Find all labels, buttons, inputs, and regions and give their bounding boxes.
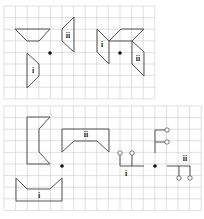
object-wing-right <box>109 29 144 41</box>
centre-of-rotation-dot <box>118 51 122 55</box>
figures <box>15 17 192 201</box>
centre-of-rotation-dot <box>153 164 157 168</box>
ring-end-icon <box>188 176 192 180</box>
label-ii: ii <box>183 154 188 163</box>
centre-of-rotation-dot <box>60 164 64 168</box>
rotation-diagram: iiiiiiiiiiii <box>0 0 204 219</box>
object-trapezoid <box>15 29 50 41</box>
label-ii: ii <box>84 130 89 139</box>
grid-paper <box>4 6 201 210</box>
label-i: i <box>32 66 35 75</box>
label-i: i <box>101 40 104 49</box>
grid-bottom <box>4 106 201 210</box>
ring-end-icon <box>118 151 122 155</box>
ring-end-icon <box>165 128 169 132</box>
centre-of-rotation-dot <box>48 51 52 55</box>
label-i: i <box>125 169 128 178</box>
ring-end-icon <box>130 151 134 155</box>
label-ii: ii <box>136 54 141 63</box>
label-ii: ii <box>66 31 71 40</box>
figure-labels: iiiiiiiiiiii <box>32 31 188 200</box>
ring-end-icon <box>165 140 169 144</box>
ring-end-icon <box>177 176 181 180</box>
